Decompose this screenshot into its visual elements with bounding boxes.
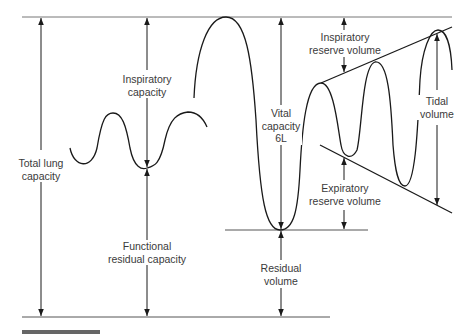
label-line: Inspiratory <box>117 73 177 86</box>
label-line: volume <box>260 275 302 288</box>
label-line: Inspiratory <box>308 31 382 44</box>
label-line: reserve volume <box>308 44 382 57</box>
label-line: Vital <box>260 107 302 120</box>
label-line: Expiratory <box>308 182 382 195</box>
label-line: capacity <box>260 120 302 133</box>
label-total-lung-capacity: Total lung capacity <box>18 157 64 182</box>
label-expiratory-reserve-volume: Expiratory reserve volume <box>308 182 382 207</box>
label-line: capacity <box>18 170 64 183</box>
footer-bar <box>22 330 100 334</box>
label-line: reserve volume <box>308 195 382 208</box>
tidal-breathing-wave <box>70 112 207 169</box>
label-tidal-volume: Tidal volume <box>415 95 459 120</box>
lung-volumes-diagram <box>0 0 474 334</box>
label-functional-residual-capacity: Functional residual capacity <box>107 240 187 265</box>
label-vital-capacity: Vital capacity 6L <box>260 107 302 145</box>
label-line: volume <box>415 108 459 121</box>
label-line: Residual <box>260 262 302 275</box>
label-line: Functional <box>107 240 187 253</box>
label-residual-volume: Residual volume <box>260 262 302 287</box>
label-line: Tidal <box>415 95 459 108</box>
label-inspiratory-capacity: Inspiratory capacity <box>117 73 177 98</box>
label-line: 6L <box>260 132 302 145</box>
label-line: Total lung <box>18 157 64 170</box>
label-inspiratory-reserve-volume: Inspiratory reserve volume <box>308 31 382 56</box>
label-line: residual capacity <box>107 253 187 266</box>
label-line: capacity <box>117 86 177 99</box>
